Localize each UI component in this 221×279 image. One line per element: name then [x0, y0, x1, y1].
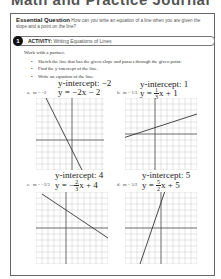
equation-answer: y = −23x + 4 — [55, 179, 98, 192]
page-title: Math and Practice Journal — [0, 0, 221, 8]
problem-letter: c. — [27, 182, 30, 187]
instruction-list: Sketch the line that has the given slope… — [38, 58, 182, 80]
coordinate-grid[interactable] — [36, 192, 108, 264]
activity-title: Writing Equations of Lines — [53, 38, 111, 44]
activity-banner: 1 ACTIVITY: Writing Equations of Lines — [13, 36, 215, 46]
problem-letter: b. — [117, 90, 120, 95]
problem-slope: m = −2 — [33, 90, 46, 95]
equation-answer: y = 52x + 5 — [142, 179, 180, 192]
page-header: Math and Practice Journal — [0, 0, 221, 8]
essential-question-label: Essential Question — [16, 17, 70, 23]
problem-slope: m = 5/2 — [123, 182, 137, 187]
coordinate-grid[interactable] — [125, 98, 197, 170]
activity-label: ACTIVITY: — [28, 38, 52, 44]
problem-letter: a. — [27, 90, 30, 95]
instruction-item: Find the y-intercept of the line. — [38, 65, 182, 72]
activity-number: 1 — [13, 36, 23, 46]
problem-slope: m = −2/3 — [33, 182, 50, 187]
problem-slope: m = 1/3 — [123, 90, 137, 95]
instruction-item: Sketch the line that has the given slope… — [38, 58, 182, 65]
essential-question: Essential Question How can you write an … — [16, 17, 212, 30]
equation-answer: y = −2x − 2 — [58, 87, 100, 97]
coordinate-grid[interactable] — [36, 98, 104, 170]
intro-text: Work with a partner. — [24, 50, 65, 55]
problem-letter: d. — [117, 182, 120, 187]
coordinate-grid[interactable] — [125, 192, 197, 264]
